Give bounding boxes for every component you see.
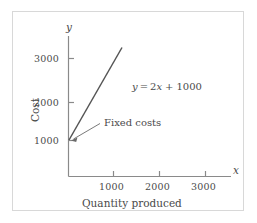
x-tick-label-1000: 1000 <box>99 182 124 192</box>
x-axis-title: Quantity produced <box>82 198 182 209</box>
y-tick-label-3000: 3000 <box>34 54 59 64</box>
equation-y: y <box>132 81 138 92</box>
x-tick-label-3000: 3000 <box>191 182 216 192</box>
equation-constant: 1000 <box>176 81 201 92</box>
equation-x: x <box>156 81 162 92</box>
equation-annotation: y=2x+1000 <box>132 82 202 92</box>
y-axis-symbol: y <box>66 22 72 33</box>
x-tick-label-2000: 2000 <box>145 182 170 192</box>
fixed-costs-arrow <box>71 124 100 142</box>
equation-plus: + <box>165 81 173 92</box>
y-tick-label-1000: 1000 <box>34 136 59 146</box>
fixed-costs-label: Fixed costs <box>104 118 161 128</box>
x-axis-symbol: x <box>233 165 239 176</box>
figure-container: y x 3000 2000 1000 1000 2000 3000 Cost Q… <box>0 0 257 223</box>
equation-equals: = <box>140 81 148 92</box>
y-axis-title: Cost <box>30 98 41 122</box>
